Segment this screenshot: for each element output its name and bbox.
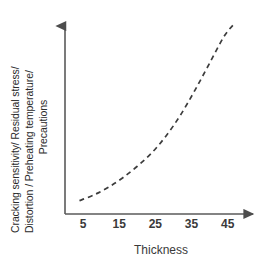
x-axis-title-text: Thickness — [134, 243, 188, 257]
y-axis-label: Cracking sensitivity/ Residual stress/ D… — [0, 0, 60, 230]
chart-figure: Cracking sensitivity/ Residual stress/ D… — [0, 0, 278, 269]
x-tick-label-35: 35 — [178, 217, 206, 231]
trend-curve-dashed — [79, 23, 234, 201]
x-axis-title: Thickness — [0, 243, 278, 257]
x-tick-label-45: 45 — [214, 217, 242, 231]
x-tick-label-25: 25 — [141, 217, 169, 231]
x-tick-label-15: 15 — [105, 217, 133, 231]
y-axis-label-line-2: Distortion / Preheating temperature/ — [24, 21, 35, 233]
y-axis-label-line-1: Cracking sensitivity/ Residual stress/ — [10, 21, 21, 233]
x-tick-label-5: 5 — [69, 217, 97, 231]
y-axis-label-line-3: Precautions — [38, 21, 49, 233]
